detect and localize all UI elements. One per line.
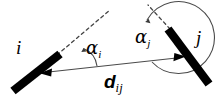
node-label-i-text: i: [16, 37, 21, 58]
angle-label-alpha-i-symbol: α: [86, 37, 98, 58]
angle-label-alpha-j-subscript: j: [147, 37, 150, 49]
angle-label-alpha-j-symbol: α: [135, 26, 147, 47]
distance-label-symbol: d: [104, 71, 116, 92]
figure-canvas: i j αi αj dij: [0, 0, 221, 101]
angle-label-alpha-i: αi: [86, 39, 101, 60]
node-label-i: i: [16, 38, 21, 57]
distance-label-dij: dij: [104, 72, 123, 95]
distance-label-subscript: ij: [116, 81, 123, 95]
angle-label-alpha-i-subscript: i: [98, 48, 101, 60]
node-label-j-text: j: [196, 27, 201, 48]
node-label-j: j: [196, 28, 201, 47]
angle-label-alpha-j: αj: [135, 28, 150, 49]
